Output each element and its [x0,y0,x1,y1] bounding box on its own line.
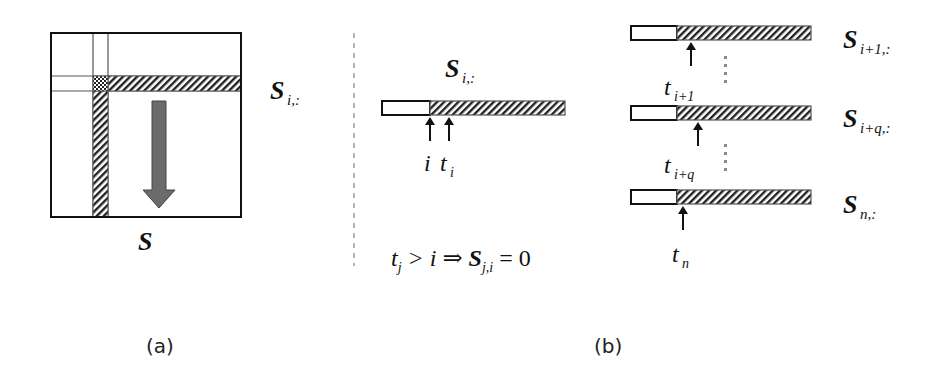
pointer-label-t-i-plus-q-base: t [664,152,672,178]
center-row-label-sub: i,: [462,70,475,86]
pointer-label-t-n-sub: n [682,256,689,271]
panel-b: S i,: i t i tj > i ⇒ Sj,i = 0 [382,25,891,358]
matrix-label: S [138,227,152,256]
pointer-label-t-i-plus-1-sub: i+1 [674,89,694,104]
figure-canvas: S i,: S (a) S i,: i t i t [0,0,949,376]
row-label-base: S [270,76,284,105]
hatched-row-segment [108,76,241,91]
row-label-i-plus-q-sub: i+q,: [860,120,891,136]
intersection-cell [93,76,108,91]
up-arrow-icon [693,122,703,146]
equation-rhs-sub: j,i [480,260,493,275]
panel-a: S i,: S (a) [51,33,300,358]
row-label-i-plus-q-base: S [843,104,857,133]
row-label-i-plus-1-sub: i+1,: [860,41,891,57]
center-row-label-base: S [445,54,459,83]
pointer-label-ti-base: t [440,150,448,176]
pointer-label-i: i [424,150,431,176]
up-arrow-icon [425,117,435,141]
up-arrow-icon [444,117,454,141]
pointer-label-t-i-plus-q-sub: i+q [674,167,694,182]
row-label-sub: i,: [287,92,300,108]
row-bar-i-plus-1 [631,26,811,40]
up-arrow-icon [686,42,696,66]
row-label-i-plus-1-base: S [843,25,857,54]
matrix-box [51,33,241,217]
pointer-label-t-i-plus-1-base: t [664,74,672,100]
caption-b: (b) [594,334,622,358]
center-row-bar [382,101,565,115]
row-bar-i-plus-q [631,106,811,120]
pointer-label-ti-sub: i [450,165,454,180]
row-bar-n [631,190,811,204]
equation-rhs-base: S [469,245,482,271]
equation-op: > i ⇒ [402,245,469,271]
up-arrow-icon [678,206,688,230]
vertical-ellipsis-icon [724,144,727,171]
row-label-n-base: S [843,190,857,219]
caption-a: (a) [146,334,174,358]
row-label-n-sub: n,: [860,206,876,222]
pointer-label-t-n-base: t [672,241,680,267]
hatched-column-segment [93,91,108,217]
equation: tj > i ⇒ Sj,i = 0 [391,245,531,275]
vertical-ellipsis-icon [724,56,727,83]
equation-rhs-tail: = 0 [493,245,531,271]
svg-text:tj > i ⇒ Sj,i = 0: tj > i ⇒ Sj,i = 0 [391,245,531,275]
